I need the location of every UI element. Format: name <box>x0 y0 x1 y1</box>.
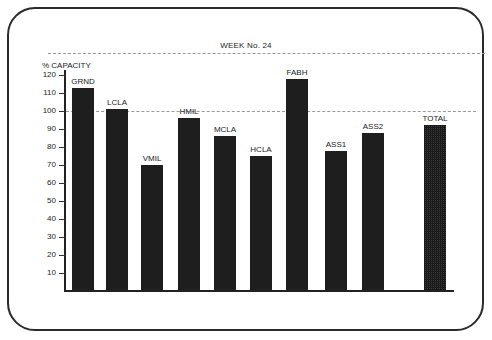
y-tick <box>59 219 65 220</box>
bar-label: FABH <box>277 69 317 77</box>
y-tick <box>59 111 65 112</box>
bar-label: GRND <box>63 78 103 86</box>
y-tick <box>59 147 65 148</box>
y-tick <box>59 201 65 202</box>
y-tick-label: 60 <box>36 179 56 187</box>
bar-label: LCLA <box>97 99 137 107</box>
bar-mcla <box>214 136 236 290</box>
bar-label: HMIL <box>169 108 209 116</box>
bar-fabh <box>286 79 308 290</box>
bar-lcla <box>106 109 128 290</box>
bar-hcla <box>250 156 272 290</box>
y-tick <box>59 129 65 130</box>
bar-label: TOTAL <box>415 115 455 123</box>
bar-vmil <box>141 165 163 290</box>
y-tick-label: 110 <box>36 89 56 97</box>
bar-chart: WEEK No. 24 % CAPACITY 10203040506070809… <box>0 0 492 340</box>
y-tick <box>59 183 65 184</box>
y-tick <box>59 93 65 94</box>
x-axis <box>64 290 454 292</box>
y-tick-label: 100 <box>36 107 56 115</box>
bar-grnd <box>72 88 94 290</box>
bar-label: ASS1 <box>316 141 356 149</box>
y-tick <box>59 255 65 256</box>
bar-total <box>424 125 446 290</box>
y-tick-label: 30 <box>36 233 56 241</box>
y-tick <box>59 75 65 76</box>
y-tick-label: 80 <box>36 143 56 151</box>
chart-title: WEEK No. 24 <box>0 41 492 50</box>
y-tick-label: 10 <box>36 269 56 277</box>
bar-label: MCLA <box>205 126 245 134</box>
y-tick-label: 20 <box>36 251 56 259</box>
bar-ass1 <box>325 151 347 290</box>
bar-hmil <box>178 118 200 290</box>
y-tick-label: 120 <box>36 71 56 79</box>
y-tick-label: 50 <box>36 197 56 205</box>
y-tick-label: 40 <box>36 215 56 223</box>
y-axis-label: % CAPACITY <box>42 61 91 70</box>
bar-label: ASS2 <box>353 123 393 131</box>
bar-ass2 <box>362 133 384 290</box>
y-tick <box>59 237 65 238</box>
title-divider <box>48 53 485 54</box>
y-tick-label: 90 <box>36 125 56 133</box>
bar-label: HCLA <box>241 146 281 154</box>
y-tick <box>59 165 65 166</box>
y-tick-label: 70 <box>36 161 56 169</box>
y-axis <box>64 70 66 292</box>
bar-label: VMIL <box>132 155 172 163</box>
y-tick <box>59 273 65 274</box>
